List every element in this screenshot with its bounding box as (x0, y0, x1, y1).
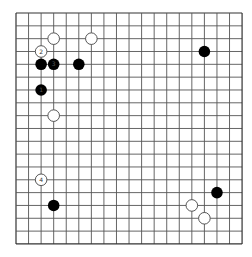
move-number-label: 3 (52, 60, 56, 67)
black-stone-icon (211, 187, 223, 199)
white-stone[interactable]: 4 (35, 174, 47, 186)
move-number-label: 2 (39, 48, 43, 55)
black-stone[interactable] (211, 187, 223, 199)
white-stone[interactable]: 2 (35, 46, 47, 58)
white-stone[interactable] (86, 33, 98, 45)
black-stone[interactable] (199, 46, 211, 58)
black-stone-icon (73, 59, 85, 71)
white-stone-icon (48, 33, 60, 45)
white-stone-icon (199, 212, 211, 224)
white-stone[interactable] (48, 110, 60, 122)
go-board[interactable]: 2314 (0, 0, 252, 257)
black-stone-icon (199, 46, 211, 58)
move-number-label: 1 (39, 86, 43, 93)
white-stone-icon (186, 200, 198, 212)
black-stone[interactable] (73, 59, 85, 71)
black-stone-icon (48, 200, 60, 212)
white-stone[interactable] (199, 212, 211, 224)
black-stone-icon (35, 59, 47, 71)
black-stone[interactable]: 1 (35, 84, 47, 96)
white-stone[interactable] (48, 33, 60, 45)
white-stone-icon (48, 110, 60, 122)
black-stone[interactable] (48, 200, 60, 212)
move-number-label: 4 (39, 176, 43, 183)
black-stone[interactable]: 3 (48, 59, 60, 71)
black-stone[interactable] (35, 59, 47, 71)
white-stone[interactable] (186, 200, 198, 212)
white-stone-icon (86, 33, 98, 45)
